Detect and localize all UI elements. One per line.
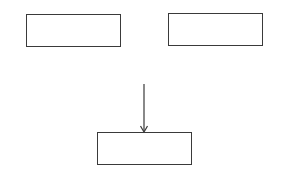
- block-diagram: [0, 0, 284, 169]
- connectors-layer: [0, 0, 284, 169]
- arrow-to-bottom: [141, 84, 148, 132]
